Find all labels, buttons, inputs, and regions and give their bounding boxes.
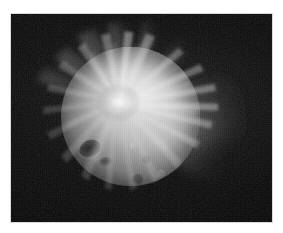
- figure-root: Grayscale telescopic image of a spherica…: [0, 0, 283, 233]
- figure-alt-text: Grayscale telescopic image of a spherica…: [0, 0, 1, 1]
- dark-crater-minor: [98, 155, 113, 167]
- image-plate: [11, 14, 272, 222]
- planetary-disk: [61, 47, 200, 186]
- dark-crater-major: [76, 136, 103, 160]
- surface-craterfield: [110, 79, 249, 218]
